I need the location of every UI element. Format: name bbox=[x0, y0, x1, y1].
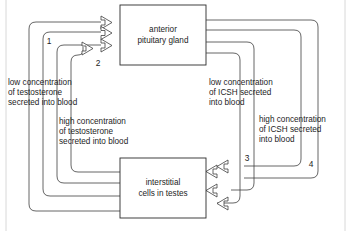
marker-4: 4 bbox=[309, 159, 314, 169]
box-interstitial-cells bbox=[120, 158, 206, 218]
arrowhead-into-testes-1 bbox=[206, 165, 217, 178]
diagram-canvas: anterior pituitary gland interstitial ce… bbox=[0, 0, 348, 231]
box-interstitial-cells-line1: interstitial bbox=[146, 178, 181, 187]
label-low-icsh-line1: low concentration bbox=[209, 78, 273, 87]
marker-3: 3 bbox=[245, 153, 250, 163]
label-low-testosterone-line2: of testosterone bbox=[8, 88, 63, 97]
label-low-icsh-line3: into blood bbox=[209, 98, 245, 107]
marker-1: 1 bbox=[47, 36, 52, 46]
label-high-testosterone-line3: secreted into blood bbox=[59, 137, 129, 146]
label-low-icsh-line2: of ICSH secreted bbox=[209, 88, 272, 97]
arrowhead-into-pituitary-2 bbox=[101, 27, 112, 40]
label-low-testosterone-line1: low concentration bbox=[8, 78, 72, 87]
arrowhead-into-pituitary-4 bbox=[82, 42, 93, 55]
arrowhead-into-pituitary-3 bbox=[101, 39, 112, 52]
label-low-testosterone-line3: secreted into blood bbox=[8, 98, 78, 107]
box-interstitial-cells-line2: cells in testes bbox=[138, 189, 187, 198]
feedback-loop-diagram: anterior pituitary gland interstitial ce… bbox=[0, 0, 348, 231]
arrowhead-into-testes-4 bbox=[217, 197, 228, 210]
marker-2: 2 bbox=[96, 58, 101, 68]
label-high-testosterone-line2: of testosterone bbox=[59, 127, 114, 136]
box-anterior-pituitary-line1: anterior bbox=[149, 25, 177, 34]
flow-path-8-low-icsh-inner bbox=[206, 53, 240, 203]
arrowhead-into-testes-2 bbox=[217, 160, 228, 173]
label-high-icsh-line3: into blood bbox=[259, 135, 295, 144]
flow-path-2-low-testosterone-inner bbox=[43, 32, 120, 196]
box-anterior-pituitary bbox=[120, 5, 206, 65]
box-anterior-pituitary-line2: pituitary gland bbox=[138, 36, 189, 45]
label-high-icsh-line2: of ICSH secreted bbox=[259, 125, 322, 134]
flow-path-3-high-testosterone bbox=[57, 45, 120, 183]
label-high-icsh-line1: high concentration bbox=[259, 115, 326, 124]
label-high-testosterone-line1: high concentration bbox=[59, 117, 126, 126]
arrowhead-into-testes-3 bbox=[206, 184, 217, 197]
